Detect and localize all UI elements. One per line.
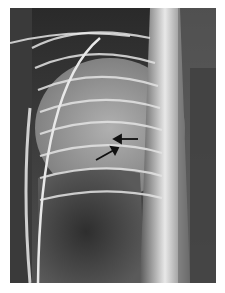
chest-xray-image — [10, 8, 216, 283]
xray-drawing — [10, 8, 216, 283]
